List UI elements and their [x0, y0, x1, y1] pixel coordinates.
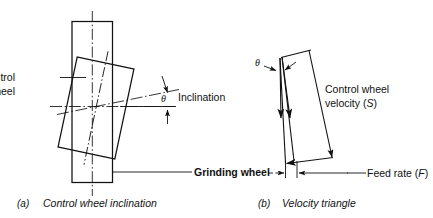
control-wheel-centerline	[84, 51, 108, 164]
velocity-label-prefix: velocity (	[325, 97, 367, 109]
panel-b-caption-tag: (b)	[258, 198, 270, 209]
panel-b-theta-label: θ	[255, 57, 260, 68]
panel-a-caption-text: Control wheel inclination	[43, 197, 157, 209]
panel-b-theta-arrow-right	[285, 62, 296, 70]
panel-a-group: θ Inclination Control wheel Grinding whe…	[0, 11, 270, 209]
grinding-wheel-label: Grinding wheel	[194, 166, 270, 178]
inclination-arrow-upper	[162, 76, 168, 93]
parallelogram-inner-side	[282, 57, 294, 161]
control-wheel-group	[56, 45, 137, 171]
feed-rate-label: Feed rate (F)	[367, 167, 428, 179]
control-wheel-label-line1: Control	[0, 71, 15, 83]
feed-rate-suffix: )	[425, 167, 429, 179]
velocity-label-suffix: )	[373, 97, 377, 109]
panel-b-group: θ Control wheel velocity (S) Feed rate (…	[255, 50, 428, 209]
control-wheel-velocity-label-line1: Control wheel	[325, 83, 389, 95]
panel-a-caption-tag: (a)	[17, 198, 29, 209]
panel-b-theta-arrow-left	[264, 66, 276, 71]
control-wheel-label-line2: wheel	[0, 85, 15, 97]
diagram-canvas: θ Inclination Control wheel Grinding whe…	[0, 0, 433, 218]
parallelogram-top-edge	[281, 50, 311, 58]
figure-centerless-grinding-geometry: θ Inclination Control wheel Grinding whe…	[0, 0, 433, 218]
inclination-label: Inclination	[178, 91, 225, 103]
panel-a-theta-label: θ	[161, 93, 166, 104]
panel-b-caption-text: Velocity triangle	[282, 197, 356, 209]
feed-rate-prefix: Feed rate (	[367, 167, 419, 179]
control-wheel-velocity-label-line2: velocity (S)	[325, 97, 377, 109]
velocity-symbol: S	[366, 97, 373, 109]
